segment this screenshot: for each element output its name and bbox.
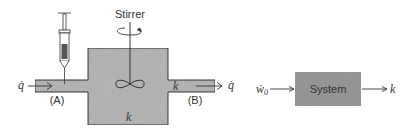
system-block-diagram: ẇ0 System k <box>256 72 396 106</box>
stirrer-label: Stirrer <box>115 8 145 20</box>
tank-k-label: k <box>126 110 132 124</box>
outlet-pipe-k-label: k <box>173 79 179 93</box>
output-label: k <box>390 82 396 96</box>
system-label: System <box>310 83 347 95</box>
inlet-flow-label: q̇ <box>18 78 24 92</box>
mixing-tank-diagram: Stirrer q̇ q̇ (A) (B) k k ẇ0 System k <box>0 0 406 136</box>
point-a-label: (A) <box>50 94 65 106</box>
rotation-arrow-icon <box>117 28 141 35</box>
outlet-flow-label: q̇ <box>228 78 234 92</box>
syringe-icon <box>58 13 71 84</box>
input-label: ẇ0 <box>256 82 268 97</box>
point-b-label: (B) <box>188 94 203 106</box>
